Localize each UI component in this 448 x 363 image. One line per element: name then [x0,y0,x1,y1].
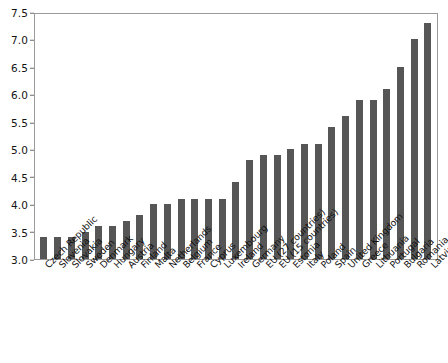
y-axis-tick: 4.5 [11,172,34,183]
y-axis-tick-label: 3.0 [11,255,28,266]
bar-slot [284,14,298,259]
bar-chart: 7.57.06.56.05.55.04.54.03.53.0 Czech Rep… [0,0,448,363]
bar-slot [174,14,188,259]
x-axis-tick-label: Portugal [388,263,395,270]
x-axis-tick-label: Greece [360,263,367,270]
x-axis-tick-label: EU (27 countries) [264,263,271,270]
y-axis: 7.57.06.56.05.55.04.54.03.53.0 [0,13,34,260]
x-axis-tick-label: Finland [139,263,146,270]
x-axis-tick-label: Denmark [98,263,105,270]
bar-slot [133,14,147,259]
x-axis-tick-label: Belgium [181,263,188,270]
x-axis-tick-label: Estonia [291,263,298,270]
bar-slot [270,14,284,259]
x-axis-tick-label: Czech Republic [43,263,50,270]
x-axis-tick-label: Netherlands [167,263,174,270]
y-axis-tick-label: 6.5 [11,63,28,74]
bar-slot [407,14,421,259]
x-axis-tick-label: Romania [415,263,422,270]
bar-slot [421,14,435,259]
bar [342,116,349,259]
bar-slot [64,14,78,259]
x-axis-tick-label: Slovakia [70,263,77,270]
bar-slot [37,14,51,259]
y-axis-tick: 4.0 [11,200,34,211]
x-axis-tick-label: Spain [333,263,340,270]
y-axis-tick: 6.5 [11,63,34,74]
y-axis-tick-label: 5.0 [11,145,28,156]
x-axis-tick-label: Cyprus [208,263,215,270]
x-axis-tick-label: Luxembourg [222,263,229,270]
x-axis-tick-label: Lithuania [374,263,381,270]
bar-slot [229,14,243,259]
x-axis-tick-label: Bulgaria [402,263,409,270]
x-axis: Czech RepublicSloveniaSlovakiaSwedenDenm… [34,261,438,361]
y-axis-tick: 6.0 [11,90,34,101]
bar-slot [257,14,271,259]
y-axis-tick-label: 3.5 [11,227,28,238]
x-axis-tick-label: Ireland [236,263,243,270]
y-axis-tick: 5.5 [11,118,34,129]
bar-slot [147,14,161,259]
bar [424,23,431,259]
bar-slot [160,14,174,259]
x-axis-tick-label: United Kingdom [346,263,353,270]
bar [328,127,335,259]
y-axis-tick-label: 5.5 [11,118,28,129]
y-axis-tick: 3.0 [11,255,34,266]
bar [397,67,404,259]
bar-slot [366,14,380,259]
x-axis-tick-label: Poland [319,263,326,270]
y-axis-tick: 7.5 [11,8,34,19]
x-axis-tick-label: Austria [126,263,133,270]
bar-slot [51,14,65,259]
x-axis-tick-label: Malta [153,263,160,270]
y-axis-tick: 3.5 [11,227,34,238]
bar-slot [243,14,257,259]
y-axis-tick-label: 4.5 [11,172,28,183]
bar-slot [215,14,229,259]
x-axis-tick-label: Sweden [84,263,91,270]
x-axis-tick-label: Latvia [429,263,436,270]
bar-slot [119,14,133,259]
x-axis-tick-label: Italy [305,263,312,270]
x-axis-tick-label: Hungary [112,263,119,270]
y-axis-tick-label: 6.0 [11,90,28,101]
x-axis-tick-label: EU (15 countries) [277,263,284,270]
y-axis-tick: 7.0 [11,35,34,46]
bar-slot [188,14,202,259]
bar-slot [202,14,216,259]
y-axis-tick-label: 7.5 [11,8,28,19]
bar-slot [106,14,120,259]
bar-slot [339,14,353,259]
y-axis-tick: 5.0 [11,145,34,156]
y-axis-tick-label: 4.0 [11,200,28,211]
x-axis-tick-label: Germany [250,263,257,270]
bar-slot [353,14,367,259]
bar [411,39,418,259]
y-axis-tick-label: 7.0 [11,35,28,46]
x-axis-tick-label: Slovenia [57,263,64,270]
bar [40,237,47,259]
bar [356,100,363,259]
x-axis-tick-label: France [195,263,202,270]
